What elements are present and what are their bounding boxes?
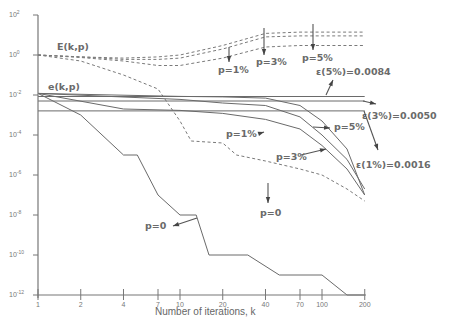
annotation-label: ε(5%)=0.0084 xyxy=(316,66,391,77)
arrowhead-icon xyxy=(258,132,264,136)
x-axis-label: Number of iterations, k xyxy=(155,306,257,317)
annotation-label: p=5% xyxy=(334,121,365,132)
y-tick-label: 100 xyxy=(9,49,20,58)
y-tick-label: 10-4 xyxy=(9,129,21,138)
annotation-label: p=3% xyxy=(276,151,307,162)
annotation-label: ε(1%)=0.0016 xyxy=(356,159,431,170)
y-ticks: 10210010-210-410-610-810-1010-12 xyxy=(9,9,38,298)
y-tick-label: 10-6 xyxy=(9,169,21,178)
annotation-label: p=3% xyxy=(256,56,287,67)
annotation-label: p=5% xyxy=(302,52,333,63)
x-tick-label: 70 xyxy=(296,301,304,308)
y-tick-label: 10-10 xyxy=(9,249,24,258)
x-tick-label: 40 xyxy=(262,301,270,308)
arrowhead-icon xyxy=(266,197,270,203)
annotation-label: e(k,p) xyxy=(48,81,80,92)
arrowhead-icon xyxy=(173,222,179,226)
series-line-6 xyxy=(38,93,365,195)
x-tick-label: 200 xyxy=(359,301,371,308)
annotations: E(k,p)e(k,p)p=1%p=3%p=5%ε(5%)=0.0084ε(3%… xyxy=(48,24,437,231)
series-line-7 xyxy=(38,93,365,295)
y-tick-label: 10-12 xyxy=(9,289,24,298)
x-tick-label: 1 xyxy=(36,301,40,308)
y-tick-label: 10-2 xyxy=(9,89,21,98)
y-tick-label: 10-8 xyxy=(9,209,21,218)
annotation-label: p=0 xyxy=(260,207,282,218)
arrowhead-icon xyxy=(227,56,231,62)
annotation-label: p=0 xyxy=(145,220,167,231)
annotation-label: p=1% xyxy=(226,128,257,139)
x-tick-label: 2 xyxy=(79,301,83,308)
x-tick-label: 4 xyxy=(122,301,126,308)
y-tick-label: 102 xyxy=(9,9,20,18)
annotation-label: p=1% xyxy=(218,64,249,75)
arrowhead-icon xyxy=(328,80,333,86)
series-line-4 xyxy=(38,93,365,195)
x-tick-label: 100 xyxy=(316,301,328,308)
arrowhead-icon xyxy=(320,148,326,152)
arrowhead-icon xyxy=(262,49,266,55)
arrowhead-icon xyxy=(374,144,378,150)
convergence-chart: 10210010-210-410-610-810-1010-12 1247102… xyxy=(0,0,449,327)
annotation-label: E(k,p) xyxy=(57,41,89,52)
arrowhead-icon xyxy=(311,44,315,50)
annotation-label: ε(3%)=0.0050 xyxy=(362,110,437,121)
